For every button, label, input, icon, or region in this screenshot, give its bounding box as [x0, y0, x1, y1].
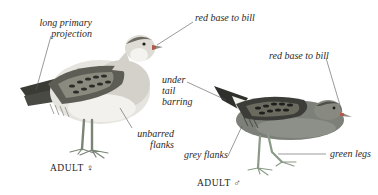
label-line: long primary: [30, 17, 92, 28]
label-long-primary-projection: long primary projection: [30, 17, 92, 39]
caption-adult-female: ADULT ♀: [50, 163, 94, 173]
label-green-legs: green legs: [330, 148, 371, 159]
label-line: under: [162, 74, 193, 85]
label-grey-flanks: grey flanks: [184, 149, 228, 160]
label-line: projection: [30, 28, 92, 39]
label-line: barring: [162, 96, 193, 107]
label-line: flanks: [130, 139, 174, 150]
caption-adult-male: ADULT ♂: [197, 178, 241, 188]
label-female-red-base-to-bill: red base to bill: [195, 12, 255, 23]
label-line: tail: [162, 85, 193, 96]
label-under-tail-barring: under tail barring: [162, 74, 193, 107]
bird-identification-figure: long primary projection red base to bill…: [0, 0, 378, 195]
label-unbarred-flanks: unbarred flanks: [130, 128, 174, 150]
label-line: unbarred: [130, 128, 174, 139]
male-bird-illustration: [214, 86, 352, 175]
label-male-red-base-to-bill: red base to bill: [269, 50, 329, 61]
